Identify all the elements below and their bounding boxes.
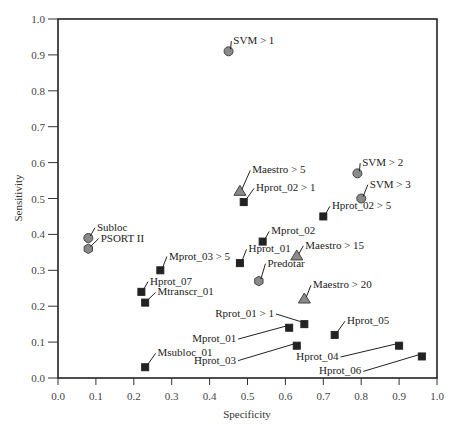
point-label: Mprot_02 [271, 224, 315, 236]
y-tick-label: 0.7 [31, 121, 45, 133]
point-label: Mprot_03 > 5 [169, 250, 231, 262]
leader-line [238, 344, 295, 361]
data-point: Hprot_04 [296, 342, 402, 362]
x-tick-label: 0.3 [165, 390, 179, 402]
data-point: SVM > 1 [224, 34, 274, 56]
point-label: Msubloc_01 [158, 346, 213, 358]
triangle-marker [234, 185, 246, 195]
x-tick-label: 0.9 [392, 390, 406, 402]
leader-line [306, 285, 311, 297]
x-tick-label: 0.7 [316, 390, 330, 402]
leader-line [238, 326, 287, 339]
leader-line [299, 246, 304, 254]
data-point: PSORT II [84, 232, 144, 254]
point-label: Maestro > 15 [305, 239, 364, 251]
x-tick-label: 0.6 [279, 390, 293, 402]
y-tick-label: 0.4 [31, 228, 45, 240]
y-tick-label: 0.5 [31, 193, 45, 205]
y-tick-label: 0.3 [31, 264, 45, 276]
leader-line [242, 170, 250, 189]
x-tick-label: 0.5 [241, 390, 255, 402]
data-point: Rprot_01 > 1 [215, 307, 308, 328]
point-label: Hprot_04 [296, 350, 339, 362]
y-tick-label: 1.0 [31, 13, 45, 25]
point-label: SVM > 1 [233, 34, 274, 46]
square-marker [293, 342, 300, 349]
leader-line [265, 231, 270, 239]
x-tick-label: 0.8 [354, 390, 368, 402]
point-label: Hprot_05 [347, 314, 390, 326]
y-axis-title: Sensitivity [12, 174, 24, 222]
leader-line [340, 344, 397, 357]
circle-marker [224, 47, 233, 56]
point-label: SVM > 3 [370, 178, 412, 190]
data-point: Hprot_02 > 5 [320, 199, 392, 220]
square-marker [286, 324, 293, 331]
leader-line [363, 185, 368, 197]
square-marker [418, 353, 425, 360]
circle-marker [353, 169, 362, 178]
leader-line [242, 249, 247, 261]
scatter-chart: 0.00.10.20.30.40.50.60.70.80.91.00.00.10… [0, 0, 456, 430]
data-point: Maestro > 20 [298, 278, 372, 303]
data-point: Mtranscr_01 [142, 285, 214, 306]
y-tick-label: 0.2 [31, 300, 45, 312]
x-tick-label: 0.0 [51, 390, 65, 402]
leader-line [162, 257, 167, 269]
x-tick-label: 1.0 [430, 390, 444, 402]
data-point: Hprot_02 > 1 [240, 181, 315, 205]
leader-line [337, 321, 345, 333]
square-marker [396, 342, 403, 349]
x-tick-label: 0.4 [203, 390, 217, 402]
data-point: Mprot_01 [192, 324, 293, 344]
leader-line [325, 206, 330, 214]
data-points: SVM > 1SVM > 2SVM > 3Maestro > 5Hprot_02… [84, 34, 426, 376]
y-tick-label: 0.8 [31, 85, 45, 97]
data-point: Predotar [255, 257, 305, 286]
y-tick-label: 0.6 [31, 157, 45, 169]
y-tick-label: 0.9 [31, 49, 45, 61]
leader-line [90, 228, 95, 236]
point-label: PSORT II [101, 232, 145, 244]
leader-line [363, 354, 420, 371]
leader-line [147, 353, 155, 365]
x-tick-label: 0.2 [127, 390, 141, 402]
point-label: Maestro > 20 [313, 278, 372, 290]
point-label: Hprot_02 > 1 [256, 181, 315, 193]
triangle-marker [298, 293, 310, 303]
point-label: Mtranscr_01 [158, 285, 214, 297]
point-label: Maestro > 5 [252, 163, 306, 175]
point-label: Hprot_06 [319, 364, 362, 376]
leader-line [246, 188, 254, 200]
y-tick-label: 0.1 [31, 336, 45, 348]
data-point: Hprot_05 [331, 314, 390, 338]
y-tick-label: 0.0 [31, 372, 45, 384]
data-point: Mprot_03 > 5 [157, 250, 231, 274]
point-label: Hprot_02 > 5 [332, 199, 392, 211]
leader-line [147, 292, 155, 300]
leader-line [276, 314, 302, 322]
data-point: SVM > 2 [353, 156, 403, 178]
x-tick-label: 0.1 [89, 390, 103, 402]
x-axis-title: Specificity [223, 408, 271, 420]
point-label: Predotar [267, 257, 305, 269]
point-label: Mprot_01 [192, 332, 236, 344]
point-label: SVM > 2 [362, 156, 403, 168]
point-label: Hprot_01 [249, 242, 291, 254]
point-label: Rprot_01 > 1 [215, 307, 274, 319]
leader-line [143, 282, 148, 290]
leader-line [261, 264, 266, 279]
